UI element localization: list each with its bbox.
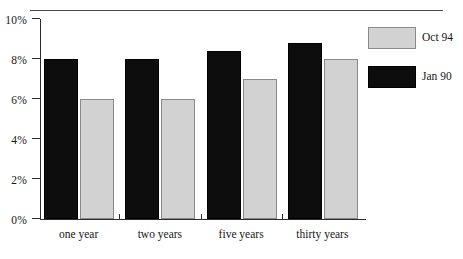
y-axis-tick-label: 4% (11, 134, 27, 146)
y-axis-tick-label: 2% (11, 174, 27, 186)
legend-row-jan90: Jan 90 (368, 66, 463, 96)
legend-label-jan90: Jan 90 (422, 70, 452, 82)
bar-jan90-one-year (44, 59, 78, 219)
y-axis-tick-label: 8% (11, 54, 27, 66)
bar-oct94-five-years (243, 79, 277, 219)
bar-jan90-two-years (125, 59, 159, 219)
bar-jan90-thirty-years (288, 43, 322, 219)
header-rule (30, 10, 443, 11)
y-axis-tick: 8% (32, 58, 40, 59)
x-axis-category-label: one year (59, 228, 98, 240)
bar-chart: 0%2%4%6%8%10% one yeartwo yearsfive year… (0, 0, 463, 259)
plot-area (40, 19, 365, 219)
bar-oct94-thirty-years (324, 59, 358, 219)
x-axis-category-label: thirty years (296, 228, 348, 240)
legend-label-oct94: Oct 94 (422, 31, 453, 43)
bar-jan90-five-years (207, 51, 241, 219)
bar-oct94-one-year (80, 99, 114, 219)
y-axis-tick: 0% (32, 218, 40, 219)
y-axis-tick: 10% (32, 18, 40, 19)
legend-swatch-oct94 (368, 27, 416, 49)
y-axis-tick: 4% (32, 138, 40, 139)
legend: Oct 94 Jan 90 (368, 27, 463, 105)
legend-row-oct94: Oct 94 (368, 27, 463, 57)
x-axis-category-label: two years (138, 228, 182, 240)
y-axis-tick-label: 10% (5, 14, 27, 26)
legend-swatch-jan90 (368, 66, 416, 88)
y-axis-tick-label: 6% (11, 94, 27, 106)
y-axis-tick: 6% (32, 98, 40, 99)
x-axis-category-label: five years (219, 228, 264, 240)
y-axis-tick-label: 0% (11, 214, 27, 226)
y-axis-tick: 2% (32, 178, 40, 179)
bar-oct94-two-years (161, 99, 195, 219)
